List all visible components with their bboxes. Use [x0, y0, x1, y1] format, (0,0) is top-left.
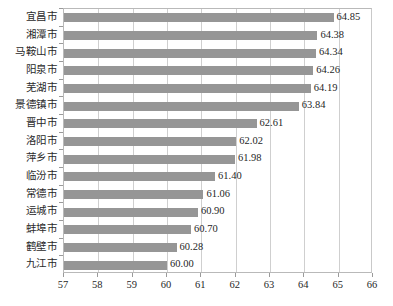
x-axis: 57585960616263646566 — [63, 273, 372, 297]
value-label: 60.70 — [194, 223, 218, 234]
value-label: 60.00 — [170, 258, 194, 269]
category-label: 洛阳市 — [26, 135, 57, 146]
x-axis-tick — [303, 273, 304, 277]
value-label: 64.19 — [314, 82, 338, 93]
category-label: 运城市 — [26, 205, 57, 216]
category-label: 临汾市 — [26, 170, 57, 181]
value-label: 62.02 — [239, 135, 263, 146]
x-axis-tick-label: 57 — [58, 279, 69, 291]
x-axis-tick — [235, 273, 236, 277]
x-axis-tick-label: 60 — [161, 279, 172, 291]
value-label: 63.84 — [302, 99, 326, 110]
value-label: 64.85 — [337, 11, 361, 22]
x-axis-tick-label: 62 — [229, 279, 240, 291]
x-axis-tick-label: 66 — [367, 279, 378, 291]
x-axis-tick-label: 58 — [92, 279, 103, 291]
category-label: 鹤壁市 — [26, 241, 57, 252]
value-label: 64.38 — [320, 29, 344, 40]
x-axis-tick-label: 61 — [195, 279, 206, 291]
value-label: 60.90 — [201, 205, 225, 216]
category-label: 湘潭市 — [26, 29, 57, 40]
x-axis-tick — [132, 273, 133, 277]
category-label: 马鞍山市 — [15, 46, 57, 57]
value-label: 61.06 — [206, 188, 230, 199]
x-axis-tick-label: 64 — [298, 279, 309, 291]
x-axis-tick — [166, 273, 167, 277]
category-axis-labels: 宜昌市湘潭市马鞍山市阳泉市芜湖市景德镇市晋中市洛阳市萍乡市临汾市常德市运城市蚌埠… — [0, 8, 60, 273]
value-label: 61.98 — [238, 152, 262, 163]
x-axis-tick — [372, 273, 373, 277]
value-label: 64.26 — [316, 64, 340, 75]
category-label: 芜湖市 — [26, 82, 57, 93]
x-axis-tick-label: 63 — [264, 279, 275, 291]
x-axis-tick-label: 65 — [332, 279, 343, 291]
category-label: 常德市 — [26, 188, 57, 199]
x-axis-tick — [200, 273, 201, 277]
x-axis-tick — [63, 273, 64, 277]
category-label: 宜昌市 — [26, 11, 57, 22]
category-label: 阳泉市 — [26, 64, 57, 75]
value-label: 60.28 — [180, 241, 204, 252]
data-value-labels: 64.8564.3864.3464.2664.1963.8462.6162.02… — [63, 8, 393, 273]
category-label: 景德镇市 — [15, 99, 57, 110]
category-label: 晋中市 — [26, 117, 57, 128]
x-axis-tick — [97, 273, 98, 277]
x-axis-tick — [338, 273, 339, 277]
value-label: 64.34 — [319, 46, 343, 57]
category-label: 九江市 — [26, 258, 57, 269]
x-axis-tick-label: 59 — [126, 279, 137, 291]
category-label: 萍乡市 — [26, 152, 57, 163]
value-label: 61.40 — [218, 170, 242, 181]
x-axis-tick — [269, 273, 270, 277]
value-label: 62.61 — [260, 117, 284, 128]
bar-chart: 宜昌市湘潭市马鞍山市阳泉市芜湖市景德镇市晋中市洛阳市萍乡市临汾市常德市运城市蚌埠… — [0, 0, 393, 306]
category-label: 蚌埠市 — [26, 223, 57, 234]
